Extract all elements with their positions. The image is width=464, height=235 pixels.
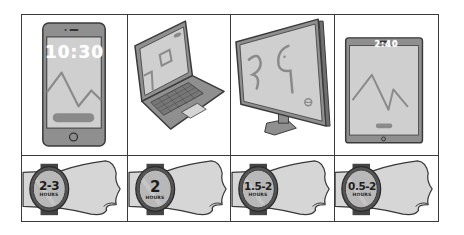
- watch-hours-value: 0.5-2: [343, 181, 381, 192]
- watch-face-label: 1.5-2 HOURS: [239, 181, 277, 197]
- device-screen-time-grid: 10:30: [21, 14, 439, 222]
- monitor-icon: [231, 15, 334, 155]
- smartphone-icon: [22, 15, 127, 155]
- watch-cell: 0.5-2 HOURS: [335, 156, 438, 221]
- watch-face-label: 2 HOURS: [138, 180, 172, 201]
- watch-hours-value: 1.5-2: [239, 181, 277, 192]
- watch-hours-value: 2-3: [32, 180, 66, 192]
- laptop-cell: [128, 15, 231, 156]
- watch-cell: 2-3 HOURS: [22, 156, 128, 221]
- monitor-cell: [231, 15, 335, 156]
- tablet-clock-text: 2:40: [335, 40, 438, 49]
- smartphone-cell: 10:30: [22, 15, 128, 156]
- watch-cell: 2 HOURS: [128, 156, 231, 221]
- laptop-icon: [128, 15, 230, 155]
- watch-face-label: 0.5-2 HOURS: [343, 181, 381, 197]
- watch-hours-unit: HOURS: [138, 196, 172, 201]
- watch-hours-value: 2: [138, 180, 172, 195]
- phone-clock-text: 10:30: [22, 42, 127, 62]
- watch-hours-unit: HOURS: [32, 193, 66, 198]
- watch-cell: 1.5-2 HOURS: [231, 156, 335, 221]
- watch-hours-unit: HOURS: [239, 193, 277, 198]
- tablet-cell: 2:40: [335, 15, 438, 156]
- watch-hours-unit: HOURS: [343, 193, 381, 198]
- tablet-icon: [335, 15, 438, 155]
- watch-face-label: 2-3 HOURS: [32, 180, 66, 198]
